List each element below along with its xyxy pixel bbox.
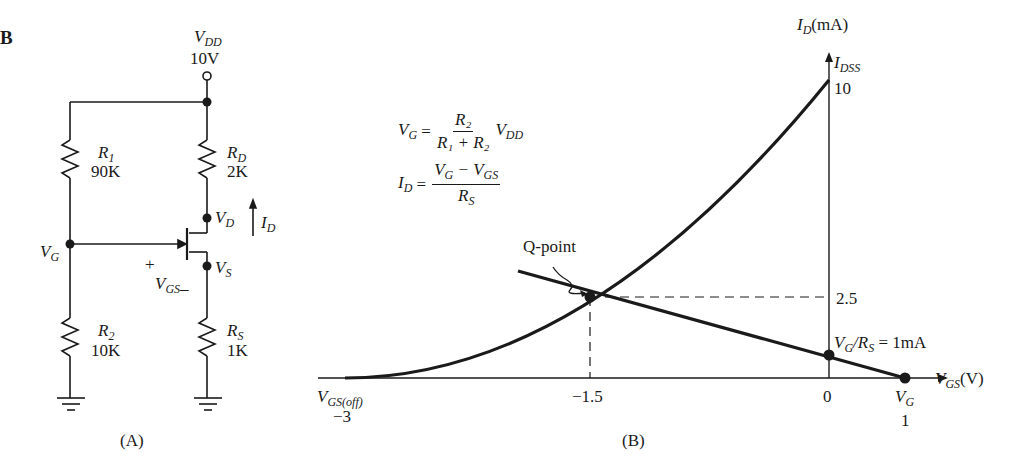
vgs-label: VGS_ (155, 275, 189, 295)
vgs-plus: + (145, 256, 155, 273)
vg-axis-label: VG (895, 388, 914, 408)
rd-label: RD (227, 144, 246, 164)
y-tick-2-5: 2.5 (836, 290, 857, 307)
y-axis-label: ID(mA) (797, 16, 848, 36)
r2-label: R2 (98, 322, 114, 342)
resistor-r2 (62, 318, 78, 356)
vg-node-label: VG (40, 243, 59, 263)
resistor-r1 (62, 140, 78, 178)
vgs-off-value: −3 (333, 408, 351, 425)
rs-label: RS (227, 322, 243, 342)
q-point-marker (585, 292, 596, 303)
x-tick-neg-1-5: −1.5 (572, 388, 603, 405)
vs-node-label: VS (215, 259, 231, 279)
intercept-marker (824, 350, 835, 361)
idss-label: IDSS (834, 54, 860, 74)
vgs-off-label: VGS(off) (317, 388, 363, 408)
graph-caption: (B) (622, 432, 645, 449)
r2-value: 10K (91, 342, 120, 359)
resistor-rs (199, 318, 215, 356)
vd-node-label: VD (215, 209, 234, 229)
rd-value: 2K (227, 163, 248, 180)
rs-value: 1K (227, 342, 248, 359)
vg-marker (900, 373, 911, 384)
vdd-value: 10V (190, 50, 219, 67)
q-point-label: Q-point (523, 238, 576, 255)
equation-id: ID = VG − VGSRS (398, 160, 506, 209)
figure-label: B (0, 28, 13, 47)
equation-vg: VG = R₂R₁ + R₂ VDD (398, 110, 523, 153)
diagram-canvas (0, 0, 1030, 467)
vdd-terminal (203, 72, 211, 80)
vg-axis-value: 1 (901, 412, 910, 429)
circuit-caption: (A) (120, 432, 144, 449)
y-tick-10: 10 (834, 80, 851, 97)
vdd-label: VDD (194, 28, 222, 48)
id-label: ID (261, 214, 275, 234)
x-axis-label: VGS(V) (935, 370, 984, 390)
r1-value: 90K (91, 163, 120, 180)
intercept-label: VG/RS = 1mA (834, 334, 926, 354)
x-tick-0: 0 (823, 388, 832, 405)
resistor-rd (199, 140, 215, 178)
bias-line (518, 271, 905, 378)
r1-label: R1 (98, 144, 114, 164)
